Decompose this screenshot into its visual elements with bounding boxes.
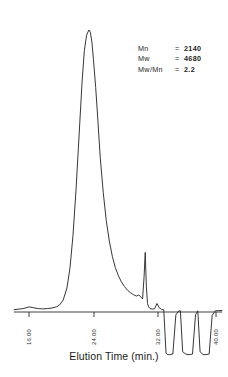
x-axis-ticks <box>29 312 216 317</box>
chromatogram-plot <box>0 0 228 377</box>
detector-response-trace <box>14 30 222 355</box>
chromatogram-figure: Mn = 2140 Mw = 4680 Mw/Mn = 2.2 16.00 24… <box>0 0 228 377</box>
x-axis-caption: Elution Time (min.) <box>0 350 228 362</box>
x-tick-label-3: 32.00 <box>155 329 161 345</box>
x-tick-label-1: 16.00 <box>26 329 32 345</box>
x-tick-label-2: 24.00 <box>91 329 97 345</box>
x-tick-label-4: 40.00 <box>213 329 219 345</box>
